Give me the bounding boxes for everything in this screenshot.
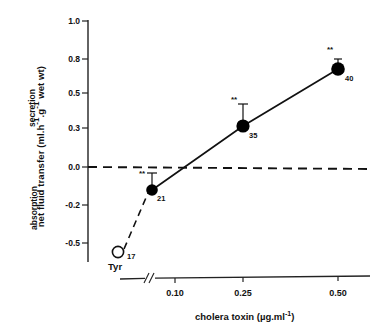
x-axis-segment-left xyxy=(120,278,145,279)
x-axis-break-slash-2 xyxy=(149,273,154,283)
data-point-0.50[interactable] xyxy=(331,62,345,76)
n-label-21: 21 xyxy=(157,194,165,203)
n-label-40: 40 xyxy=(345,74,353,83)
data-point-control-tyr[interactable] xyxy=(112,246,123,257)
significance-label-0.50: ** xyxy=(327,47,333,53)
figure-net-fluid-transfer: net fluid transfer (ml.h-1.g-1 wet wt) s… xyxy=(0,0,374,334)
significance-label-0.10: ** xyxy=(139,171,145,177)
y-tick-marks xyxy=(82,21,88,243)
n-label-17: 17 xyxy=(127,252,135,261)
x-axis-break-icon xyxy=(144,273,154,283)
n-label-35: 35 xyxy=(249,131,257,140)
x-axis-line xyxy=(120,276,370,279)
significance-label-0.25: ** xyxy=(231,97,237,103)
plot-area xyxy=(0,0,374,334)
control-label-tyr: Tyr xyxy=(108,261,122,272)
data-point-0.25[interactable] xyxy=(236,119,249,132)
series-line-control-dashed xyxy=(124,193,148,249)
zero-reference-line xyxy=(88,167,372,169)
